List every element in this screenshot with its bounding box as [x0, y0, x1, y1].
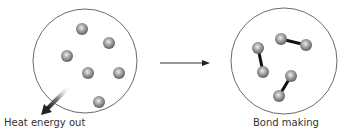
- atom: [275, 33, 287, 45]
- bond-making-label: Bond making: [253, 117, 319, 128]
- molecule: [273, 70, 297, 102]
- diagram: Heat energy out Bond making: [0, 0, 345, 140]
- heat-energy-out-label: Heat energy out: [4, 117, 85, 128]
- left-atoms: [61, 23, 125, 108]
- atom: [257, 66, 269, 78]
- atom: [252, 42, 264, 54]
- atom: [93, 96, 105, 108]
- atom: [76, 23, 88, 35]
- heat-out-arrow-icon: [41, 86, 70, 115]
- right-molecules: [252, 33, 312, 102]
- molecule: [252, 42, 269, 78]
- atom: [285, 70, 297, 82]
- atom: [61, 50, 73, 62]
- molecule: [275, 33, 312, 51]
- atom: [300, 39, 312, 51]
- atom: [113, 67, 125, 79]
- atom: [103, 37, 115, 49]
- atom: [273, 90, 285, 102]
- atom: [82, 67, 94, 79]
- right-arrow-icon: [160, 60, 210, 66]
